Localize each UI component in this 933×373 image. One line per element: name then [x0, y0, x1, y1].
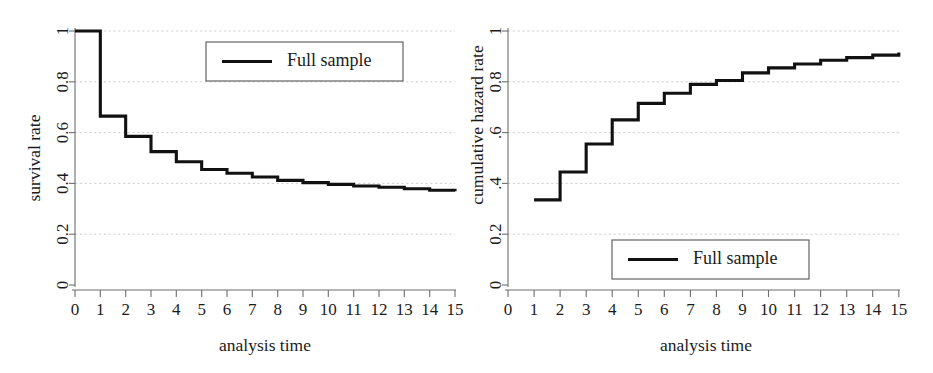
- x-axis-title: analysis time: [660, 335, 752, 355]
- y-tick-labels-left: 1 0.8 0.6 0.4 0.2 0: [53, 27, 72, 290]
- y-tick-label: 0: [53, 281, 72, 290]
- x-tick-label: 13: [396, 300, 413, 319]
- x-tick-label: 1: [530, 300, 539, 319]
- x-tick-label: 12: [812, 300, 829, 319]
- y-tick-label: .6: [486, 126, 505, 139]
- y-tick-label: 0.8: [53, 71, 72, 92]
- x-tick-label: 10: [760, 300, 777, 319]
- x-tick-label: 6: [223, 300, 232, 319]
- x-axis-left: [72, 290, 456, 297]
- y-tick-label: 0.2: [53, 224, 72, 245]
- x-tick-label: 7: [686, 300, 695, 319]
- y-axis-title: survival rate: [24, 114, 44, 201]
- y-axis-left: [69, 28, 75, 287]
- y-tick-label: 0: [486, 281, 505, 290]
- y-tick-label: 0.8: [486, 71, 505, 92]
- x-tick-label: 15: [890, 300, 907, 319]
- x-tick-label: 8: [273, 300, 282, 319]
- x-tick-label: 11: [346, 300, 362, 319]
- x-tick-label: 4: [608, 300, 617, 319]
- x-tick-label: 15: [447, 300, 464, 319]
- x-tick-label: 2: [121, 300, 130, 319]
- x-tick-label: 1: [96, 300, 105, 319]
- x-tick-label: 11: [786, 300, 802, 319]
- y-tick-label: 0.2: [486, 224, 505, 245]
- x-tick-label: 5: [197, 300, 206, 319]
- x-tick-label: 5: [634, 300, 643, 319]
- x-tick-label: 0: [71, 300, 80, 319]
- y-axis-right: [502, 28, 508, 287]
- y-tick-label: 1: [486, 27, 505, 36]
- x-tick-label: 14: [864, 300, 882, 319]
- figure-container: 1 0.8 0.6 0.4 0.2 0 survival rate: [0, 0, 933, 373]
- x-tick-label: 10: [320, 300, 337, 319]
- legend-entry-label: Full sample: [287, 50, 372, 70]
- y-tick-label: 0.6: [53, 122, 72, 143]
- x-tick-label: 8: [712, 300, 721, 319]
- legend-left: Full sample: [206, 42, 403, 81]
- legend-right: Full sample: [612, 240, 809, 279]
- x-tick-label: 14: [421, 300, 439, 319]
- x-tick-label: 6: [660, 300, 669, 319]
- x-axis-title: analysis time: [219, 335, 311, 355]
- x-tick-label: 3: [147, 300, 156, 319]
- survival-rate-chart: 1 0.8 0.6 0.4 0.2 0 survival rate: [0, 0, 466, 373]
- x-tick-label: 9: [299, 300, 308, 319]
- x-tick-label: 9: [738, 300, 747, 319]
- y-axis-title: cumulative hazard rate: [467, 45, 487, 205]
- y-tick-label: .4: [486, 177, 505, 190]
- x-tick-label: 12: [371, 300, 388, 319]
- x-tick-label: 0: [504, 300, 513, 319]
- x-tick-label: 13: [838, 300, 855, 319]
- series-line-full-sample: [534, 53, 899, 200]
- x-axis-right: [505, 290, 900, 297]
- y-tick-labels-right: 1 0.8 .6 .4 0.2 0: [486, 27, 505, 290]
- cumulative-hazard-chart: 1 0.8 .6 .4 0.2 0 cumulative hazard rate: [466, 0, 933, 373]
- legend-entry-label: Full sample: [693, 248, 778, 268]
- x-tick-labels-left: 0 1 2 3 4 5 6 7 8 9 10 11 12 13 14 15: [71, 300, 464, 319]
- x-tick-labels-right: 0 1 2 3 4 5 6 7 8 9 10 11 12 13 14 15: [504, 300, 908, 319]
- y-tick-label: 0.4: [53, 172, 72, 194]
- x-tick-label: 4: [172, 300, 181, 319]
- x-tick-label: 7: [248, 300, 257, 319]
- x-tick-label: 2: [556, 300, 565, 319]
- x-tick-label: 3: [582, 300, 591, 319]
- panel-survival-rate: 1 0.8 0.6 0.4 0.2 0 survival rate: [0, 0, 466, 373]
- panel-cumulative-hazard-rate: 1 0.8 .6 .4 0.2 0 cumulative hazard rate: [466, 0, 932, 373]
- y-tick-label: 1: [53, 27, 72, 36]
